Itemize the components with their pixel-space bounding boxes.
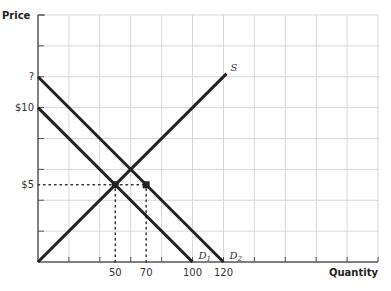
y-tick-label: $10 <box>15 102 34 113</box>
supply-label: S <box>231 62 238 73</box>
x-tick-label: 120 <box>214 267 233 278</box>
x-tick-label: 50 <box>109 267 122 278</box>
demand-label-d1: D1 <box>198 250 212 263</box>
curve-s <box>38 74 227 262</box>
demand-label-d2: D2 <box>228 250 242 263</box>
marker-equilibrium <box>112 181 119 188</box>
marker-new-quantity-demanded <box>143 181 150 188</box>
y-axis-title: Price <box>2 10 31 21</box>
x-tick-label: 70 <box>140 267 153 278</box>
x-axis-title: Quantity <box>329 267 378 278</box>
y-tick-label: ? <box>29 71 34 82</box>
x-tick-label: 100 <box>183 267 202 278</box>
supply-demand-chart: SD1D25070100120?$10$5PriceQuantity <box>0 0 391 291</box>
y-tick-label: $5 <box>21 179 34 190</box>
